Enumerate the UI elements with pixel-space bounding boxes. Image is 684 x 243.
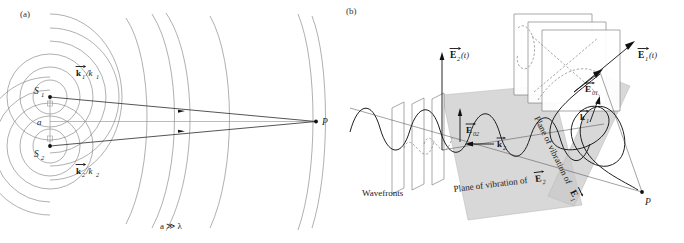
panel-b-label: (b) — [346, 6, 357, 16]
svg-text:2: 2 — [503, 144, 506, 151]
far-wavefronts — [126, 13, 326, 231]
svg-text:E: E — [534, 173, 542, 184]
svg-text:(t): (t) — [649, 50, 657, 60]
svg-text:/k: /k — [85, 166, 94, 176]
source-1-label: S 1 — [34, 86, 44, 98]
panel-b-canvas: (b) E 2 (t) E 1 (t) E 02 k 2 — [342, 0, 684, 243]
svg-text:E: E — [638, 50, 644, 60]
separation-label: a — [37, 117, 42, 127]
svg-text:1: 1 — [645, 55, 648, 62]
k2-unit-vector-label: k 2 /k 2 — [76, 163, 100, 178]
wavefronts-source-2 — [0, 77, 93, 215]
figure-root: (a) S 1 S 2 a k 1 /k 1 k 2 /k 2 P a ≫ λ — [0, 0, 684, 243]
panel-a-canvas: (a) S 1 S 2 a k 1 /k 1 k 2 /k 2 P a ≫ λ — [0, 0, 342, 243]
condition-label: a ≫ λ — [160, 221, 182, 231]
svg-text:1: 1 — [586, 117, 589, 124]
svg-text:(t): (t) — [461, 50, 469, 60]
source-1-dot — [48, 95, 52, 99]
svg-text:2: 2 — [96, 171, 100, 178]
ray-2-arrowhead — [178, 130, 185, 133]
svg-text:k: k — [497, 139, 502, 149]
svg-text:1: 1 — [96, 73, 99, 80]
svg-text:E: E — [466, 125, 472, 135]
svg-text:k: k — [580, 112, 585, 122]
svg-text:/k: /k — [85, 68, 94, 78]
svg-text:1: 1 — [82, 73, 85, 80]
ray-1-arrowhead — [178, 110, 185, 113]
point-p-dot-a — [314, 120, 318, 124]
svg-text:k: k — [76, 166, 81, 176]
source-2-dot — [48, 144, 52, 148]
point-p-label-a: P — [321, 117, 328, 127]
wavefronts-label: Wavefronts — [362, 188, 404, 198]
svg-text:E: E — [450, 50, 456, 60]
wavefront-panes-wave-2 — [392, 93, 452, 194]
point-p-label-b: P — [644, 197, 651, 207]
svg-text:k: k — [76, 68, 81, 78]
panel-a-label: (a) — [20, 9, 30, 19]
svg-text:E: E — [585, 84, 591, 94]
field-vector-2-label: E 2 (t) — [450, 47, 470, 62]
svg-text:01: 01 — [592, 89, 598, 96]
svg-text:1: 1 — [41, 91, 44, 98]
wavefront-panes-wave-1 — [514, 14, 620, 111]
svg-text:S: S — [34, 86, 39, 96]
svg-text:S: S — [34, 149, 39, 159]
svg-text:02: 02 — [473, 130, 479, 137]
svg-text:2: 2 — [41, 154, 45, 161]
k1-unit-vector-label: k 1 /k 1 — [76, 65, 100, 80]
field-vector-1-label: E 1 (t) — [638, 47, 658, 62]
point-p-dot-b — [640, 190, 644, 194]
rays-to-point-p — [50, 97, 316, 146]
